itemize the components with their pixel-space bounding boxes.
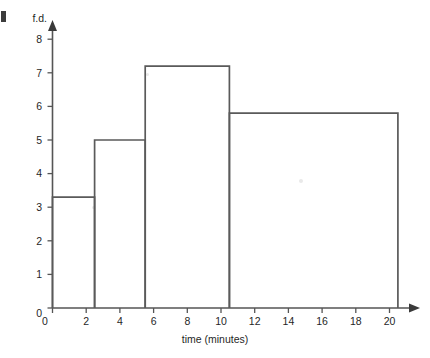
y-axis-tick-labels: 0 1 2 3 4 5 6 7 8 xyxy=(36,33,42,319)
x-tick-label: 18 xyxy=(350,315,362,327)
y-tick-label: 6 xyxy=(36,100,42,112)
x-tick-label: 8 xyxy=(184,315,190,327)
y-tick-label: 4 xyxy=(36,167,42,179)
y-axis-label: f.d. xyxy=(32,12,47,24)
histogram-bar xyxy=(145,66,229,308)
histogram-bars xyxy=(53,66,398,308)
x-axis-tick-labels: 0 2 4 6 8 10 12 14 16 18 20 xyxy=(42,315,395,327)
x-tick-label: 4 xyxy=(117,315,123,327)
y-tick-label: 8 xyxy=(36,33,42,45)
histogram-bar xyxy=(95,140,146,308)
y-axis-arrow-icon xyxy=(48,20,57,31)
x-tick-label: 16 xyxy=(316,315,328,327)
x-tick-label: 2 xyxy=(83,315,89,327)
histogram-plot: 0 1 2 3 4 5 6 7 8 0 2 4 6 8 10 12 14 16 … xyxy=(0,0,430,358)
y-tick-label: 7 xyxy=(36,67,42,79)
histogram-bar xyxy=(53,197,95,308)
x-tick-label: 12 xyxy=(249,315,261,327)
y-tick-label: 5 xyxy=(36,134,42,146)
y-tick-label: 3 xyxy=(36,201,42,213)
x-axis-label: time (minutes) xyxy=(182,333,249,345)
x-tick-label: 20 xyxy=(384,315,396,327)
x-tick-label: 0 xyxy=(42,315,48,327)
y-tick-label: 1 xyxy=(36,268,42,280)
x-tick-label: 10 xyxy=(215,315,227,327)
histogram-bar xyxy=(229,113,398,308)
y-tick-label: 2 xyxy=(36,235,42,247)
histogram-figure: 0 1 2 3 4 5 6 7 8 0 2 4 6 8 10 12 14 16 … xyxy=(0,0,430,358)
x-axis-arrow-icon xyxy=(409,304,420,313)
x-tick-label: 6 xyxy=(151,315,157,327)
x-tick-label: 14 xyxy=(283,315,295,327)
